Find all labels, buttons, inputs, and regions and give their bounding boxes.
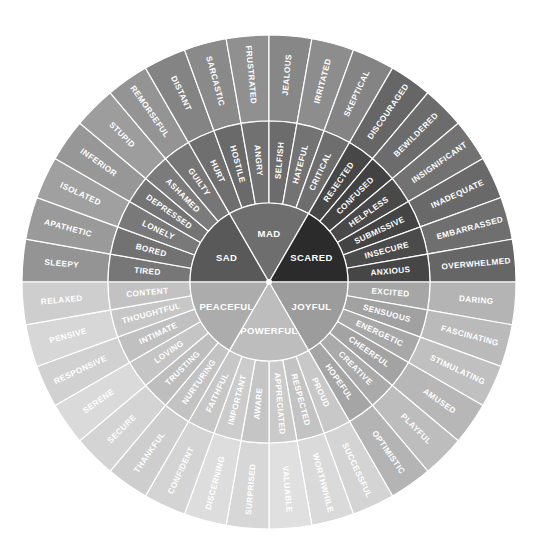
core-label-mad: MAD	[258, 228, 281, 239]
center-hub	[266, 279, 272, 285]
core-label-peaceful: PEACEFUL	[199, 301, 253, 312]
feelings-wheel: SLEEPYAPATHETICISOLATEDINFERIORSTUPIDREM…	[0, 0, 538, 556]
core-label-powerful: POWERFUL	[240, 325, 298, 336]
core-label-sad: SAD	[216, 252, 237, 263]
core-label-joyful: JOYFUL	[291, 301, 331, 312]
core-label-scared: SCARED	[290, 252, 333, 263]
